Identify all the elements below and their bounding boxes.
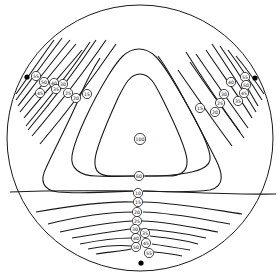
contour-label-right: 25 bbox=[215, 98, 224, 107]
svg-text:40: 40 bbox=[228, 80, 234, 85]
svg-text:15: 15 bbox=[197, 106, 203, 111]
svg-text:35: 35 bbox=[53, 87, 59, 92]
svg-text:45: 45 bbox=[37, 91, 43, 96]
svg-text:45: 45 bbox=[241, 91, 247, 96]
contour-label-right: 15 bbox=[195, 103, 204, 112]
svg-text:20: 20 bbox=[212, 110, 218, 115]
load-point-left bbox=[24, 74, 29, 79]
svg-text:45: 45 bbox=[143, 241, 149, 246]
svg-text:35: 35 bbox=[235, 99, 241, 104]
contour-label-center: 60 bbox=[134, 171, 143, 180]
diagram-canvas: 1006055504540353025201555504540353025201… bbox=[0, 0, 280, 275]
contour-label-bottom: 30 bbox=[130, 224, 139, 233]
contour-label-right: 40 bbox=[226, 77, 235, 86]
contour-label-right: 20 bbox=[210, 107, 219, 116]
svg-text:25: 25 bbox=[217, 101, 223, 106]
svg-text:55: 55 bbox=[33, 74, 39, 79]
svg-text:55: 55 bbox=[242, 75, 248, 80]
contour-label-left: 45 bbox=[35, 88, 44, 97]
contour-label-left: 25 bbox=[63, 88, 72, 97]
svg-text:50: 50 bbox=[243, 83, 249, 88]
svg-text:100: 100 bbox=[136, 137, 145, 142]
svg-text:60: 60 bbox=[136, 174, 142, 179]
contour-label-bottom: 10 bbox=[133, 188, 142, 197]
svg-text:40: 40 bbox=[133, 236, 139, 241]
contour-middle-horizontal bbox=[10, 191, 276, 194]
svg-text:20: 20 bbox=[134, 210, 140, 215]
svg-text:55: 55 bbox=[146, 251, 152, 256]
contour-outer-loop-left bbox=[72, 49, 139, 176]
contour-label-right: 45 bbox=[239, 88, 248, 97]
svg-text:25: 25 bbox=[65, 91, 71, 96]
svg-text:50: 50 bbox=[133, 245, 139, 250]
contour-middle-level bbox=[43, 58, 133, 193]
contour-label-left: 50 bbox=[39, 77, 48, 86]
svg-text:35: 35 bbox=[142, 231, 148, 236]
svg-text:30: 30 bbox=[221, 92, 227, 97]
contour-label-bottom: 20 bbox=[132, 207, 141, 216]
svg-text:30: 30 bbox=[60, 82, 66, 87]
contour-diagram: 1006055504540353025201555504540353025201… bbox=[0, 0, 280, 275]
contour-label-bottom: 40 bbox=[131, 233, 140, 242]
contour-label-left: 55 bbox=[31, 71, 40, 80]
contour-label-left: 30 bbox=[58, 79, 67, 88]
svg-text:20: 20 bbox=[73, 96, 79, 101]
contour-label-left: 20 bbox=[71, 93, 80, 102]
contour-label-bottom: 35 bbox=[140, 228, 149, 237]
contour-label-right: 30 bbox=[219, 89, 228, 98]
contour-inner-loop bbox=[95, 74, 187, 176]
svg-text:25: 25 bbox=[134, 219, 140, 224]
svg-text:10: 10 bbox=[135, 191, 141, 196]
svg-text:50: 50 bbox=[41, 80, 47, 85]
svg-text:15: 15 bbox=[84, 92, 90, 97]
svg-text:30: 30 bbox=[132, 227, 138, 232]
contour-label-bottom: 45 bbox=[141, 238, 150, 247]
load-point-bottom bbox=[138, 260, 143, 265]
load-point-right bbox=[252, 75, 257, 80]
contour-label-center: 100 bbox=[134, 133, 145, 144]
contour-label-left: 15 bbox=[82, 89, 91, 98]
contour-label-right: 35 bbox=[233, 96, 242, 105]
contour-label-bottom: 15 bbox=[133, 197, 142, 206]
contour-label-bottom: 50 bbox=[131, 242, 140, 251]
svg-text:15: 15 bbox=[135, 200, 141, 205]
contour-label-bottom: 55 bbox=[144, 248, 153, 257]
